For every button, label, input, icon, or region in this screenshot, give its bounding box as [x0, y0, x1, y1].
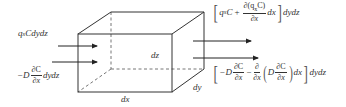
fraction-denominator: ∂x — [253, 73, 261, 82]
minus-sign: − — [246, 68, 251, 77]
outflow-advective-expression: [ qxC + ∂(qxC) ∂x dx ] dydz — [212, 2, 300, 23]
fraction-numerator: ∂C — [233, 63, 244, 73]
inflow-dispersive-label: −D ∂C ∂x dydz — [17, 66, 59, 85]
c-symbol: C — [227, 8, 233, 17]
fraction-denominator: ∂x — [32, 76, 40, 85]
fraction-numerator: ∂ — [254, 63, 260, 73]
cube-edges — [78, 12, 204, 92]
neg-D: −D — [219, 68, 232, 77]
dC-dx-fraction-1: ∂C ∂x — [233, 63, 244, 82]
left-bracket: [ — [213, 63, 217, 83]
right-bracket: ] — [277, 2, 281, 22]
fraction-numerator: ∂C — [275, 63, 286, 73]
neg-D: −D — [17, 71, 30, 80]
front-face — [78, 34, 172, 92]
advective-rest: Cdydz — [25, 29, 48, 38]
plus-sign: + — [235, 8, 240, 17]
inner-D: D — [268, 68, 275, 77]
inflow-advective-label: qxCdydz — [18, 29, 48, 38]
fraction-denominator: ∂x — [277, 73, 285, 82]
right-paren: ) — [289, 65, 293, 81]
right-bracket: ] — [304, 63, 308, 83]
left-bracket: [ — [213, 2, 217, 22]
dqC-dx-fraction: ∂(qxC) ∂x — [243, 2, 267, 23]
left-paren: ( — [263, 65, 267, 81]
dy-label: dy — [193, 83, 202, 92]
fraction-numerator: ∂C — [31, 66, 42, 76]
dC-dx-fraction: ∂C ∂x — [31, 66, 42, 85]
dydz: dydz — [283, 8, 300, 17]
outflow-dispersive-expression: [ −D ∂C ∂x − ∂ ∂x ( D ∂C ∂x ) dx ] dydz — [212, 63, 326, 83]
dC-dx-fraction-2: ∂C ∂x — [275, 63, 286, 82]
dz-label: dz — [151, 51, 159, 60]
dx-term: dx — [267, 8, 276, 17]
dydz: dydz — [43, 71, 60, 80]
hidden-edges — [78, 12, 204, 92]
fraction-numerator: ∂(qxC) — [243, 2, 267, 14]
dx-label: dx — [121, 95, 130, 104]
fraction-denominator: ∂x — [251, 14, 259, 23]
d-dx-operator: ∂ ∂x — [253, 63, 261, 82]
dydz: dydz — [309, 68, 326, 77]
fraction-denominator: ∂x — [235, 73, 243, 82]
dx-term: dx — [294, 68, 303, 77]
